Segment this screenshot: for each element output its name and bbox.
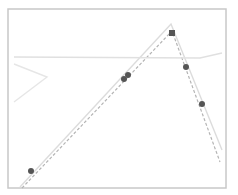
square-marker — [169, 30, 175, 36]
circle-marker — [199, 101, 205, 107]
circle-marker — [28, 168, 34, 174]
circle-marker — [183, 64, 189, 70]
circle-marker — [125, 72, 131, 78]
plot-frame — [8, 9, 226, 188]
plot-area — [0, 0, 238, 195]
